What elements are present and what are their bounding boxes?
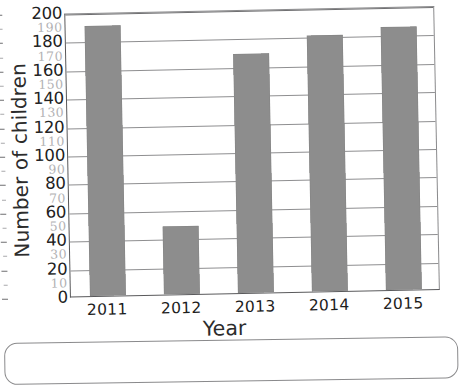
bar-2014: [307, 35, 348, 291]
y-tick-mark: [0, 185, 6, 186]
y-tick-label-minor: 110: [5, 135, 65, 149]
gridlines-layer: [65, 7, 433, 14]
bar-2012: [163, 226, 200, 295]
y-tick-mark: [0, 43, 3, 44]
y-tick-label-minor: 190: [2, 22, 62, 36]
y-tick-mark-minor: [0, 57, 3, 58]
x-tick-label-2015: 2015: [363, 294, 443, 314]
y-tick-label-minor: 90: [5, 164, 65, 178]
gridline: [65, 7, 433, 15]
x-tick-label-2011: 2011: [67, 300, 147, 320]
y-tick-mark: [0, 71, 3, 72]
y-tick-label-minor: 30: [7, 249, 67, 263]
y-tick-mark-minor: [3, 228, 7, 229]
y-tick-mark-minor: [3, 256, 7, 257]
answer-box[interactable]: [4, 336, 459, 385]
y-tick-label-minor: 170: [3, 50, 63, 64]
x-tick-label-2012: 2012: [141, 298, 221, 318]
y-tick-label-minor: 150: [4, 78, 64, 92]
y-tick-label-minor: 70: [6, 192, 66, 206]
y-tick-mark-minor: [0, 114, 4, 115]
y-tick-label-minor: 130: [4, 107, 64, 121]
y-tick-mark: [0, 157, 5, 158]
y-tick-mark-minor: [0, 86, 4, 87]
y-tick-mark-minor: [4, 284, 8, 285]
bar-chart-figure: Number of children 200180160140120100806…: [0, 0, 448, 321]
y-tick-mark: [0, 128, 5, 129]
y-tick-mark-minor: [1, 171, 5, 172]
y-tick-mark: [1, 242, 7, 243]
y-tick-mark: [0, 100, 4, 101]
bar-2011: [85, 26, 126, 296]
plot-area: [64, 6, 440, 297]
y-tick-label-major: 0: [8, 289, 68, 307]
x-axis-tick-labels: 20112012201320142015: [0, 0, 442, 1]
y-tick-label-minor: 10: [8, 277, 68, 291]
y-tick-mark-minor: [0, 29, 3, 30]
y-axis-tick-labels: 2001801601401201008060402001901701501301…: [0, 0, 442, 1]
y-tick-label-minor: 50: [6, 220, 66, 234]
bar-2013: [233, 54, 274, 293]
x-tick-label-2013: 2013: [215, 297, 295, 317]
y-tick-mark: [0, 15, 2, 16]
gridline: [66, 35, 434, 43]
y-tick-mark: [1, 270, 7, 271]
y-tick-mark-minor: [1, 142, 5, 143]
y-tick-mark: [0, 213, 6, 214]
bar-2015: [381, 27, 422, 290]
x-tick-label-2014: 2014: [289, 295, 369, 315]
y-tick-mark-minor: [2, 199, 6, 200]
y-tick-mark: [2, 299, 8, 300]
